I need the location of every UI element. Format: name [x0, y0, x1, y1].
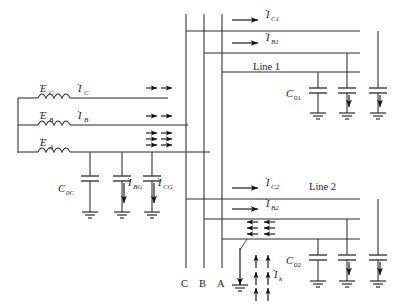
current-B-symbol: I	[77, 110, 82, 121]
label-bus-C: C	[181, 278, 188, 289]
source-shunt-drops	[90, 152, 152, 176]
cap-C0C-subscript: 0C	[66, 189, 75, 197]
label-current-C: ˙ I C	[76, 82, 89, 97]
emf-B-symbol: E	[39, 110, 47, 121]
fault-current-arrows-Ik	[256, 255, 268, 301]
current-B-subscript: B	[84, 116, 89, 124]
emf-C-subscript: C	[49, 89, 54, 97]
label-capacitor-C01: C 01	[286, 88, 302, 102]
svg-text:Line 1: Line 1	[253, 61, 280, 72]
circuit-svg: ˙ E C ˙ I C ˙ E B ˙ I B ˙ E A C 0C ˙ I B…	[0, 0, 397, 305]
label-capacitor-C0C: C 0C	[58, 183, 75, 197]
current-C-subscript: C	[84, 89, 89, 97]
line2-capacitor-phase-C	[369, 199, 387, 287]
capacitor-C0C	[81, 176, 99, 218]
current-IBG-symbol: I	[127, 177, 132, 188]
current-IB1-symbol: I	[265, 32, 270, 43]
svg-text:C: C	[181, 278, 188, 289]
label-current-IC2: ˙ I C2	[264, 176, 280, 191]
source-branch-B	[18, 121, 188, 125]
label-current-IBG: ˙ I BG	[126, 176, 142, 191]
current-Ik-subscript: k	[279, 275, 283, 283]
circuit-diagram-canvas: ˙ E C ˙ I C ˙ E B ˙ I B ˙ E A C 0C ˙ I B…	[0, 0, 397, 305]
cap-C01-subscript: 01	[294, 94, 302, 102]
label-current-IC1: ˙ I C1	[264, 8, 279, 23]
current-IC2-subscript: C2	[271, 183, 280, 191]
cap-C02-subscript: 02	[294, 261, 302, 269]
label-current-ICG: ˙ I CG	[156, 176, 173, 191]
line2-reverse-current-arrows	[247, 222, 275, 234]
svg-text:A: A	[217, 278, 225, 289]
line2-capacitor-C02	[309, 239, 327, 287]
source-branch-C	[18, 94, 168, 98]
cap-C02-symbol: C	[286, 255, 294, 266]
label-current-B: ˙ I B	[76, 109, 89, 124]
label-bus-A: A	[217, 278, 225, 289]
current-IC1-subscript: C1	[271, 15, 279, 23]
current-ICG-subscript: CG	[163, 183, 173, 191]
emf-C-symbol: E	[39, 83, 47, 94]
source-current-arrows-A	[146, 133, 172, 145]
current-Ik-symbol: I	[273, 269, 278, 280]
svg-text:Line 2: Line 2	[309, 181, 336, 192]
current-IB2-subscript: B2	[271, 204, 279, 212]
current-IBG-subscript: BG	[133, 183, 142, 191]
cap-C0C-symbol: C	[58, 183, 66, 194]
line1-capacitor-phase-C	[369, 31, 387, 119]
label-current-IB1: ˙ I B1	[264, 31, 279, 46]
current-C-symbol: I	[77, 83, 82, 94]
label-bus-B: B	[199, 278, 206, 289]
current-IC1-symbol: I	[265, 9, 270, 20]
current-IC2-symbol: I	[265, 177, 270, 188]
label-line1-name: Line 1	[253, 61, 280, 72]
cap-C01-symbol: C	[286, 88, 294, 99]
line2-capacitor-phase-B	[338, 219, 356, 287]
current-ICG-symbol: I	[157, 177, 162, 188]
current-IB1-subscript: B1	[271, 38, 279, 46]
current-IB2-symbol: I	[265, 198, 270, 209]
svg-text:B: B	[199, 278, 206, 289]
label-capacitor-C02: C 02	[286, 255, 302, 269]
line1-capacitor-phase-B	[338, 53, 356, 119]
line1-capacitor-C01	[309, 72, 327, 119]
label-line2-name: Line 2	[309, 181, 336, 192]
emf-B-subscript: B	[49, 116, 54, 124]
fault-symbol	[232, 239, 248, 291]
source-branch-A	[18, 148, 210, 152]
emf-A-symbol: E	[39, 137, 47, 148]
emf-A-subscript: A	[48, 143, 54, 151]
label-fault-current-Ik: ˙ I k	[272, 268, 283, 283]
